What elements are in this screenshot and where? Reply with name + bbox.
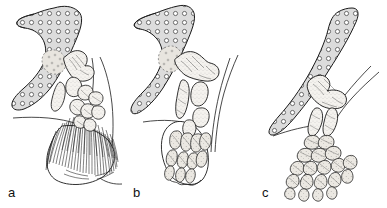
panel-a-label: a (8, 185, 16, 200)
limb-transition-figure: a (0, 0, 387, 208)
figure-container: a (0, 0, 387, 208)
panel-c-label: c (262, 185, 269, 200)
panel-b-label: b (133, 185, 140, 200)
